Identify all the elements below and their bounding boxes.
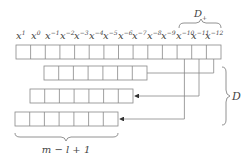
top-row-labels: x1 x0 x−1 x−2 x−3 x−4 x−5 x−6 x−7 x−8 x−… bbox=[16, 29, 223, 41]
label-x-8: x−8 bbox=[147, 29, 162, 41]
bottom-brace-label: m − l + 1 bbox=[42, 144, 91, 155]
label-x-4: x−4 bbox=[89, 29, 104, 41]
label-x1: x1 bbox=[16, 29, 25, 41]
label-x-5: x−5 bbox=[103, 29, 118, 41]
label-x-3: x−3 bbox=[74, 29, 89, 41]
diagram-canvas: x1 x0 x−1 x−2 x−3 x−4 x−5 x−6 x−7 x−8 x−… bbox=[0, 0, 249, 161]
connector-x-11 bbox=[135, 59, 199, 96]
label-x0: x0 bbox=[31, 29, 41, 41]
top-brace-label: D+ bbox=[193, 8, 207, 21]
label-x-12: x−12 bbox=[205, 29, 223, 41]
connectors bbox=[120, 59, 214, 119]
shifted-row-1 bbox=[44, 66, 147, 80]
shifted-row-2 bbox=[30, 89, 133, 103]
label-x-1: x−1 bbox=[45, 29, 60, 41]
top-brace bbox=[179, 19, 221, 28]
right-brace-label: D bbox=[231, 90, 241, 103]
bottom-brace bbox=[15, 133, 118, 141]
label-x-2: x−2 bbox=[60, 29, 75, 41]
connector-x-12 bbox=[147, 59, 214, 73]
label-x-7: x−7 bbox=[132, 29, 147, 41]
label-x-9: x−9 bbox=[161, 29, 176, 41]
label-x-6: x−6 bbox=[118, 29, 133, 41]
shifted-row-3 bbox=[15, 112, 118, 126]
right-brace bbox=[222, 67, 230, 125]
top-row-cells bbox=[16, 45, 221, 59]
